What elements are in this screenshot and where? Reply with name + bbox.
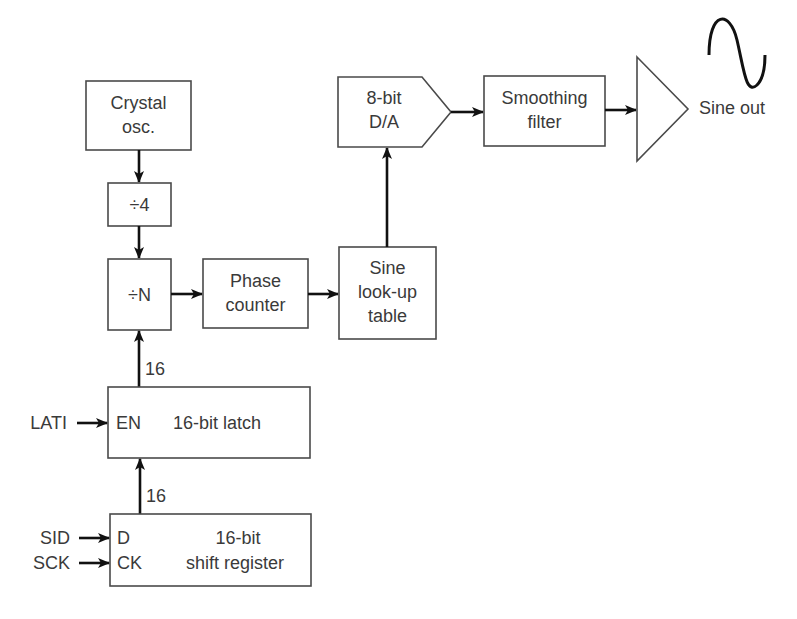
sine-lookup-table-block: Sine look-up table: [339, 247, 436, 339]
shift-register-d-pin-label: D: [117, 528, 130, 548]
dds-block-diagram: Crystal osc. ÷4 ÷N Phase counter Sine lo…: [0, 0, 797, 619]
phase-counter-block: Phase counter: [203, 259, 308, 328]
phase-counter-label-1: Phase: [230, 271, 281, 291]
bus-width-shift-to-latch: 16: [146, 486, 166, 506]
latch-block: EN 16-bit latch: [108, 387, 310, 458]
divN-label: ÷N: [128, 285, 151, 305]
shift-register-label-2: shift register: [186, 553, 284, 573]
shift-register-ck-pin-label: CK: [117, 553, 142, 573]
divide-by-4-block: ÷4: [108, 183, 171, 226]
crystal-osc-block: Crystal osc.: [86, 81, 191, 150]
latch-label: 16-bit latch: [173, 413, 261, 433]
dac-label-1: 8-bit: [366, 88, 401, 108]
crystal-osc-label-2: osc.: [122, 117, 155, 137]
shift-register-block: D CK 16-bit shift register: [110, 514, 311, 586]
filter-label-1: Smoothing: [501, 88, 587, 108]
shift-register-label-1: 16-bit: [215, 528, 260, 548]
sine-wave-icon: [709, 19, 765, 87]
div4-label: ÷4: [130, 195, 150, 215]
dac-block: 8-bit D/A: [338, 77, 451, 147]
sck-input-label: SCK: [33, 553, 70, 573]
dac-label-2: D/A: [369, 112, 399, 132]
divide-by-n-block: ÷N: [108, 259, 171, 330]
crystal-osc-label-1: Crystal: [110, 93, 166, 113]
lati-input-label: LATI: [30, 413, 67, 433]
phase-counter-label-2: counter: [225, 295, 285, 315]
amplifier-triangle-icon: [637, 57, 688, 161]
sine-table-label-2: look-up: [358, 282, 417, 302]
sine-table-label-3: table: [368, 306, 407, 326]
smoothing-filter-block: Smoothing filter: [484, 76, 605, 146]
filter-label-2: filter: [527, 112, 561, 132]
sine-out-label: Sine out: [699, 98, 765, 118]
sine-table-label-1: Sine: [369, 258, 405, 278]
latch-en-pin-label: EN: [116, 413, 141, 433]
bus-width-latch-to-divN: 16: [145, 359, 165, 379]
sid-input-label: SID: [40, 528, 70, 548]
